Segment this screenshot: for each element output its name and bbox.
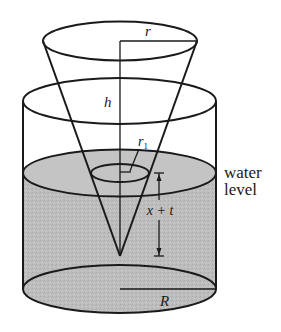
label-r1: r1 — [138, 134, 148, 151]
label-h: h — [104, 94, 112, 110]
label-r: r — [145, 23, 151, 39]
cone-in-tank-diagram: r h r1 x + t water level R — [0, 0, 281, 332]
label-level: level — [224, 180, 257, 199]
label-R: R — [159, 293, 169, 309]
label-depth: x + t — [146, 203, 175, 218]
